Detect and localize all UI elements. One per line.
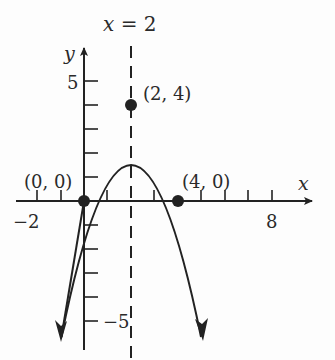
symmetry-label-var: x <box>103 12 114 36</box>
tick-label-y-5: 5 <box>67 72 78 93</box>
label-origin: (0, 0) <box>24 171 72 192</box>
x-axis-label: x <box>298 172 309 194</box>
symmetry-label: x = 2 <box>103 12 156 36</box>
parabola-graph: x y −2 8 5 −5 x = 2 (2, 4) (0, 0) (4, 0) <box>0 0 335 360</box>
point-origin <box>78 195 90 207</box>
tick-label-y-neg5: −5 <box>103 311 130 332</box>
label-vertex: (2, 4) <box>143 83 191 104</box>
label-root: (4, 0) <box>182 171 230 192</box>
y-axis-label: y <box>63 42 75 64</box>
point-vertex <box>125 99 137 111</box>
tick-label-x-neg2: −2 <box>13 211 40 232</box>
tick-label-x-8: 8 <box>266 211 277 232</box>
point-root <box>172 195 184 207</box>
curve-arrow-right-icon <box>195 318 208 341</box>
graph-canvas: x y −2 8 5 −5 x = 2 (2, 4) (0, 0) (4, 0) <box>0 0 335 360</box>
symmetry-label-value: = 2 <box>114 12 156 36</box>
curve-arrow-left-icon <box>55 320 67 342</box>
